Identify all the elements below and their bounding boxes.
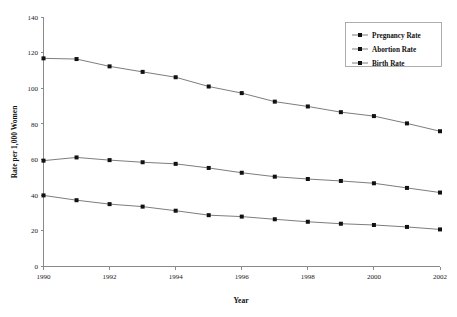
x-tick-label: 1994 bbox=[169, 273, 184, 281]
data-point-marker bbox=[306, 177, 310, 181]
data-point-marker bbox=[438, 129, 442, 133]
data-point-marker bbox=[240, 91, 244, 95]
x-tick-label: 2000 bbox=[367, 273, 382, 281]
data-point-marker bbox=[42, 56, 46, 60]
y-axis-tick-labels: 020406080100120140 bbox=[28, 14, 39, 272]
data-point-marker bbox=[339, 179, 343, 183]
data-point-marker bbox=[42, 159, 46, 163]
x-axis-tick-labels: 1990199219941996199820002002 bbox=[37, 273, 448, 281]
data-point-marker bbox=[438, 191, 442, 195]
line-chart: 020406080100120140 199019921994199619982… bbox=[0, 0, 457, 317]
y-axis: 020406080100120140 bbox=[28, 14, 44, 272]
data-point-marker bbox=[438, 227, 442, 231]
data-point-marker bbox=[108, 64, 112, 68]
chart-legend[interactable]: Pregnancy RateAbortion RateBirth Rate bbox=[346, 23, 442, 68]
data-point-marker bbox=[75, 155, 79, 159]
data-point-marker bbox=[42, 193, 46, 197]
x-axis: 1990199219941996199820002002 bbox=[37, 267, 448, 281]
data-point-marker bbox=[207, 166, 211, 170]
series-line bbox=[44, 195, 441, 229]
legend-marker-swatch bbox=[358, 33, 362, 37]
data-point-marker bbox=[372, 114, 376, 118]
data-point-marker bbox=[141, 70, 145, 74]
data-point-marker bbox=[141, 160, 145, 164]
data-point-marker bbox=[75, 198, 79, 202]
data-point-marker bbox=[405, 225, 409, 229]
y-tick-label: 40 bbox=[31, 192, 39, 200]
y-axis-title: Rate per 1,000 Women bbox=[10, 105, 19, 178]
data-point-marker bbox=[405, 121, 409, 125]
data-point-marker bbox=[273, 217, 277, 221]
series-abortion-rate bbox=[42, 155, 443, 194]
y-tick-label: 60 bbox=[31, 156, 39, 164]
data-point-marker bbox=[174, 75, 178, 79]
legend-label: Pregnancy Rate bbox=[372, 32, 421, 40]
data-point-marker bbox=[372, 181, 376, 185]
y-tick-label: 140 bbox=[28, 14, 39, 22]
data-point-marker bbox=[108, 158, 112, 162]
data-point-marker bbox=[240, 171, 244, 175]
x-axis-title: Year bbox=[234, 296, 250, 305]
data-point-marker bbox=[273, 100, 277, 104]
x-tick-label: 2002 bbox=[433, 273, 448, 281]
legend-label: Birth Rate bbox=[372, 60, 405, 68]
data-point-marker bbox=[207, 85, 211, 89]
legend-marker-swatch bbox=[358, 61, 362, 65]
series-layer bbox=[42, 56, 443, 231]
data-point-marker bbox=[240, 215, 244, 219]
series-line bbox=[44, 157, 441, 192]
x-tick-label: 1992 bbox=[103, 273, 118, 281]
data-point-marker bbox=[339, 110, 343, 114]
legend-marker-swatch bbox=[358, 47, 362, 51]
data-point-marker bbox=[174, 162, 178, 166]
data-point-marker bbox=[405, 186, 409, 190]
data-point-marker bbox=[174, 209, 178, 213]
y-tick-label: 120 bbox=[28, 49, 39, 57]
data-point-marker bbox=[306, 220, 310, 224]
x-tick-label: 1998 bbox=[301, 273, 316, 281]
data-point-marker bbox=[273, 175, 277, 179]
data-point-marker bbox=[141, 205, 145, 209]
data-point-marker bbox=[306, 104, 310, 108]
y-tick-label: 0 bbox=[35, 263, 39, 271]
y-tick-label: 80 bbox=[31, 121, 39, 129]
x-axis-ticks bbox=[44, 267, 441, 271]
y-tick-label: 100 bbox=[28, 85, 39, 93]
data-point-marker bbox=[108, 202, 112, 206]
series-pregnancy-rate bbox=[42, 56, 443, 133]
x-tick-label: 1990 bbox=[37, 273, 52, 281]
legend-label: Abortion Rate bbox=[372, 46, 416, 54]
series-birth-rate bbox=[42, 193, 443, 231]
chart-container: 020406080100120140 199019921994199619982… bbox=[0, 0, 457, 317]
data-point-marker bbox=[372, 223, 376, 227]
data-point-marker bbox=[207, 213, 211, 217]
data-point-marker bbox=[339, 222, 343, 226]
y-tick-label: 20 bbox=[31, 227, 39, 235]
x-tick-label: 1996 bbox=[235, 273, 250, 281]
data-point-marker bbox=[75, 57, 79, 61]
